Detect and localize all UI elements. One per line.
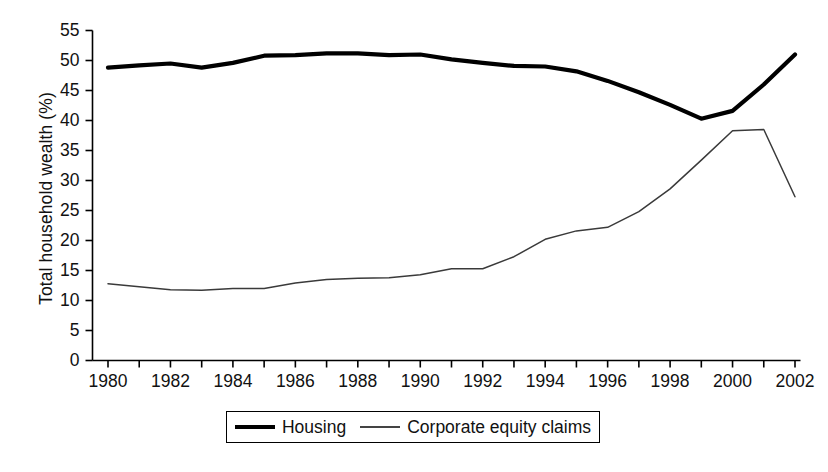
axes — [86, 31, 801, 368]
series-line-corporate-equity-claims — [108, 130, 795, 291]
legend-entry-housing: Housing — [235, 417, 346, 438]
legend-line-swatch-corporate-equity-claims — [360, 426, 400, 427]
data-series — [108, 53, 795, 290]
plot-area — [0, 0, 828, 472]
legend-label-corporate-equity-claims: Corporate equity claims — [407, 417, 591, 438]
series-line-housing — [108, 53, 795, 118]
legend: Housing Corporate equity claims — [226, 411, 600, 443]
legend-line-swatch-housing — [235, 425, 275, 429]
legend-entry-corporate-equity-claims: Corporate equity claims — [360, 417, 591, 438]
chart-container: Total household wealth (%) 0510152025303… — [0, 0, 828, 472]
legend-label-housing: Housing — [282, 417, 346, 438]
